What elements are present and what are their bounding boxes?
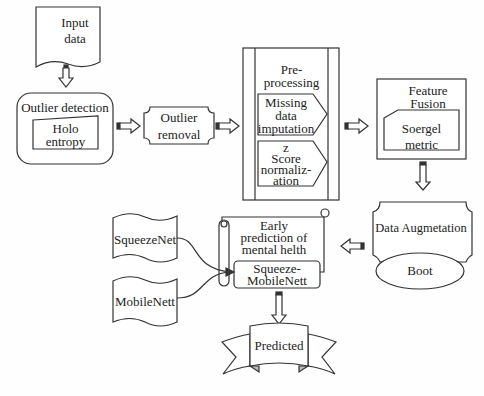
predicted-label: Predicted	[250, 339, 308, 352]
arrow-right-icon	[216, 119, 239, 133]
arrow-right-icon	[117, 119, 140, 133]
mobilenett-label: MobileNett	[111, 295, 179, 308]
text-line: Input	[50, 16, 100, 29]
outlier-removal-label: Outlier removal	[144, 111, 214, 141]
early-prediction-label: Early prediction of mental helth	[226, 220, 322, 256]
soergel-metric-label: Soergel metric	[384, 122, 459, 151]
flow-diagram: Input data Outlier detection Holo entrop…	[0, 0, 484, 396]
data-augmentation-label: Data Augmetation	[366, 222, 476, 235]
z-score-label: z Score normaliz- ation	[256, 142, 316, 186]
squeezenet-label: SqueezeNet	[111, 233, 179, 246]
text-line: imputation	[255, 122, 317, 135]
text-line: entropy	[33, 135, 98, 148]
input-data-label: Input data	[50, 16, 100, 45]
outlier-detection-title: Outlier detection	[17, 101, 113, 114]
arrow-down-icon	[59, 65, 73, 87]
holo-entropy-label: Holo entropy	[33, 122, 98, 148]
text-line: mental helth	[226, 244, 322, 256]
text-line: metric	[384, 138, 459, 151]
text-line: Fusion	[392, 97, 464, 110]
text-line: data	[50, 32, 100, 45]
text-line: Outlier	[144, 111, 214, 124]
ribbon-right-tail	[308, 334, 336, 374]
arrow-down-icon	[416, 162, 430, 190]
arrow-down-icon	[272, 292, 286, 324]
text-line: MobileNett	[234, 275, 320, 287]
text-line: Soergel	[384, 122, 459, 135]
arrow-left-icon	[341, 239, 364, 253]
diagram-shapes	[0, 0, 484, 396]
ribbon-left-tail	[222, 334, 250, 374]
arrow-right-icon	[345, 119, 368, 133]
text-line: processing	[255, 76, 328, 89]
model-label: Squeeze- MobileNett	[234, 263, 320, 287]
feature-fusion-title: Feature Fusion	[392, 84, 464, 110]
missing-data-label: Missing data imputation	[255, 96, 317, 135]
text-line: removal	[144, 128, 214, 141]
preprocessing-title: Pre- processing	[255, 63, 328, 89]
boot-label: Boot	[396, 264, 444, 277]
